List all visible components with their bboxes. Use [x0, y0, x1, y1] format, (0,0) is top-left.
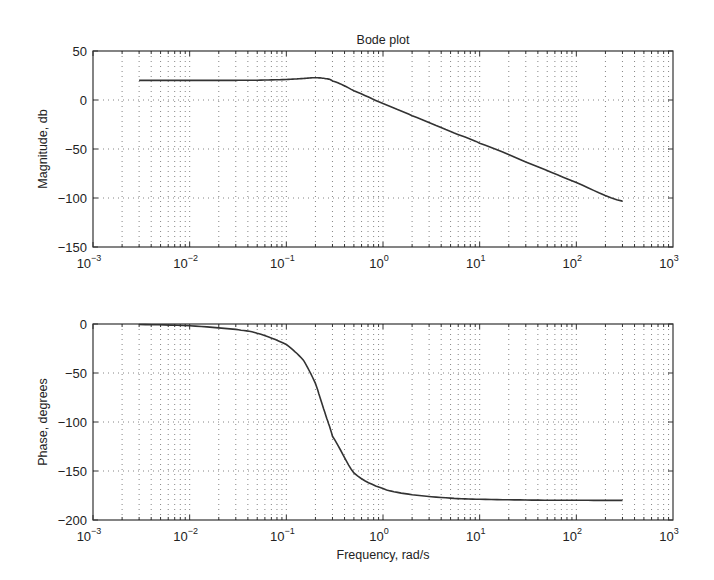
x-tick-label: 100 [369, 253, 388, 271]
y-tick-label: −50 [65, 142, 87, 157]
y-tick-label: −150 [58, 240, 87, 255]
x-tick-label: 10−3 [77, 526, 102, 544]
x-tick-label: 10−1 [270, 253, 295, 271]
phase-grid [93, 324, 673, 520]
y-tick-label: −150 [58, 464, 87, 479]
x-tick-label: 10−1 [270, 526, 295, 544]
frequency-x-axis-label: Frequency, rad/s [337, 548, 430, 562]
x-tick-label: 100 [369, 526, 388, 544]
y-tick-label: 0 [80, 93, 87, 108]
y-tick-label: −50 [65, 366, 87, 381]
x-tick-label: 102 [563, 526, 582, 544]
phase-axes: 0−50−100−150−20010−310−210−1100101102103… [36, 317, 679, 562]
phase-curve [139, 325, 622, 501]
y-tick-label: 0 [80, 317, 87, 332]
y-tick-label: −100 [58, 191, 87, 206]
y-tick-label: −200 [58, 513, 87, 528]
x-tick-label: 101 [466, 253, 485, 271]
phase-y-axis-label: Phase, degrees [36, 378, 50, 466]
bode-plot-canvas: Bode plot 500−50−100−15010−310−210−11001… [0, 0, 714, 580]
x-tick-label: 101 [466, 526, 485, 544]
x-tick-label: 10−3 [77, 253, 102, 271]
magnitude-axes: 500−50−100−15010−310−210−1100101102103 M… [36, 44, 679, 271]
y-tick-label: 50 [73, 44, 87, 59]
x-tick-label: 102 [563, 253, 582, 271]
bode-figure: Bode plot 500−50−100−15010−310−210−11001… [0, 0, 714, 580]
magnitude-y-axis-label: Magnitude, db [36, 109, 50, 188]
y-tick-label: −100 [58, 415, 87, 430]
chart-title: Bode plot [357, 33, 410, 47]
x-tick-label: 103 [659, 526, 678, 544]
x-tick-label: 103 [659, 253, 678, 271]
magnitude-curve [139, 78, 622, 201]
x-tick-label: 10−2 [173, 526, 198, 544]
x-tick-label: 10−2 [173, 253, 198, 271]
